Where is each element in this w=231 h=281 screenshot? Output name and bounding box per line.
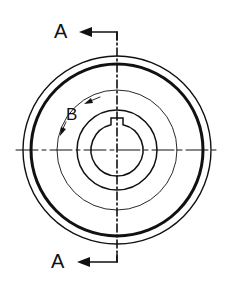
arrowhead-detail-lower-icon	[60, 127, 66, 136]
detail-label: B	[66, 105, 77, 124]
section-arrow-bottom-leader	[88, 254, 117, 262]
section-arrow-top-leader	[90, 32, 117, 40]
section-label-top: A	[54, 20, 68, 42]
arrowhead-top-icon	[79, 27, 92, 37]
arrowhead-bottom-icon	[77, 257, 90, 267]
section-label-bottom: A	[51, 250, 65, 272]
section-drawing: A A B	[0, 0, 231, 281]
